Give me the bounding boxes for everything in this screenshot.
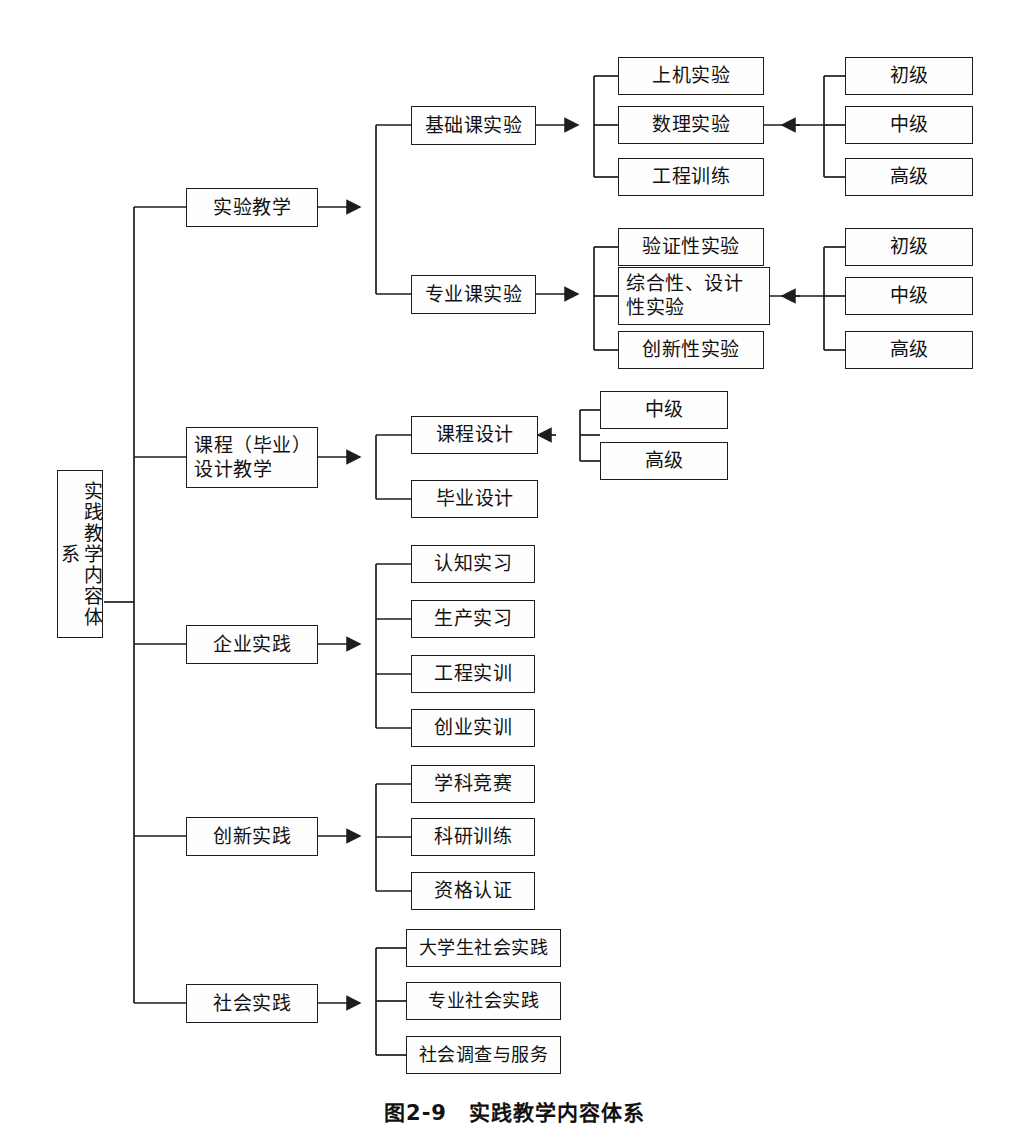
leaf-label-line1: 综合性、设计 <box>626 272 743 296</box>
grade-node-intermediate-mid[interactable]: 中级 <box>845 277 973 315</box>
leaf-comprehensive-design-experiment[interactable]: 综合性、设计 性实验 <box>618 267 770 325</box>
grade-node-primary-mid[interactable]: 初级 <box>845 228 973 266</box>
node-graduation-design[interactable]: 毕业设计 <box>411 480 538 518</box>
grade-node-advanced-top[interactable]: 高级 <box>845 158 973 196</box>
grade-node-intermediate-top[interactable]: 中级 <box>845 106 973 144</box>
branch-node-innovation-practice[interactable]: 创新实践 <box>186 817 318 856</box>
branch-node-social-practice[interactable]: 社会实践 <box>186 984 318 1023</box>
grade-node-primary-top[interactable]: 初级 <box>845 57 973 95</box>
grade-node-intermediate-design[interactable]: 中级 <box>600 391 728 429</box>
grade-node-advanced-mid[interactable]: 高级 <box>845 331 973 369</box>
leaf-computer-experiment[interactable]: 上机实验 <box>618 57 764 95</box>
branch-node-course-graduation-design[interactable]: 课程（毕业） 设计教学 <box>186 427 318 488</box>
leaf-qualification-certification[interactable]: 资格认证 <box>411 872 535 910</box>
root-node[interactable]: 实践教学内容体系 <box>57 470 103 638</box>
leaf-professional-social-practice[interactable]: 专业社会实践 <box>406 982 561 1020</box>
grade-node-advanced-design[interactable]: 高级 <box>600 442 728 480</box>
practice-teaching-content-diagram: 实践教学内容体系 实验教学 课程（毕业） 设计教学 企业实践 创新实践 社会实践… <box>0 0 1029 1144</box>
node-basic-course-experiment[interactable]: 基础课实验 <box>411 106 536 145</box>
figure-caption: 图2-9 实践教学内容体系 <box>0 1096 1029 1126</box>
leaf-label-line2: 性实验 <box>626 296 685 320</box>
leaf-cognitive-internship[interactable]: 认知实习 <box>411 545 535 583</box>
leaf-innovative-experiment[interactable]: 创新性实验 <box>618 331 764 369</box>
branch-node-experiment-teaching[interactable]: 实验教学 <box>186 188 318 227</box>
branch-node-enterprise-practice[interactable]: 企业实践 <box>186 625 318 664</box>
leaf-college-student-social-practice[interactable]: 大学生社会实践 <box>406 929 561 967</box>
node-major-course-experiment[interactable]: 专业课实验 <box>411 275 536 314</box>
leaf-social-survey-and-service[interactable]: 社会调查与服务 <box>406 1036 561 1074</box>
leaf-verification-experiment[interactable]: 验证性实验 <box>618 228 764 266</box>
leaf-entrepreneurship-training[interactable]: 创业实训 <box>411 709 535 747</box>
node-course-design[interactable]: 课程设计 <box>411 416 538 454</box>
branch-label-line1: 课程（毕业） <box>194 434 311 458</box>
leaf-research-training[interactable]: 科研训练 <box>411 818 535 856</box>
leaf-discipline-competition[interactable]: 学科竞赛 <box>411 765 535 803</box>
leaf-math-physics-experiment[interactable]: 数理实验 <box>618 106 764 144</box>
leaf-engineering-training[interactable]: 工程训练 <box>618 158 764 196</box>
branch-label-line2: 设计教学 <box>194 458 272 482</box>
leaf-production-internship[interactable]: 生产实习 <box>411 600 535 638</box>
leaf-engineering-practice-training[interactable]: 工程实训 <box>411 655 535 693</box>
